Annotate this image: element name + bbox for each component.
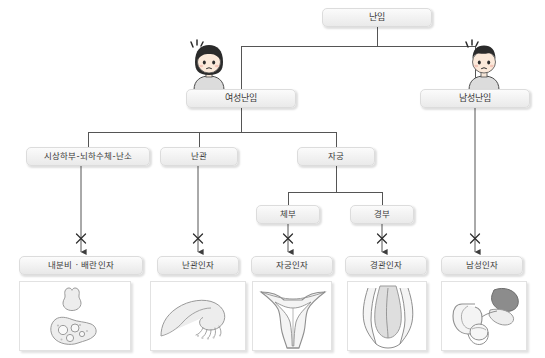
node-root-infertility[interactable]: 난임: [322, 8, 432, 27]
illustration-frame-uterine: [252, 281, 332, 351]
illustration-frame-endocrine: [19, 281, 131, 351]
node-label: 내분비 · 배란인자: [48, 261, 114, 270]
node-uterine-cervix[interactable]: 경부: [350, 205, 414, 224]
diagram-canvas: 난임 여성난임 남성난임 시상하부-뇌하수체-난소 난관 자궁 체부 경부 내분…: [0, 0, 545, 358]
female-patient-icon: [186, 38, 232, 90]
illustration-frame-tubal: [150, 281, 246, 351]
node-label: 시상하부-뇌하수체-난소: [44, 152, 133, 161]
node-label: 난임: [369, 13, 385, 22]
uterus-icon: [253, 282, 332, 351]
node-label: 자궁: [328, 152, 344, 161]
illustration-frame-male: [441, 281, 527, 351]
node-label: 남성난임: [459, 94, 492, 103]
node-label: 자궁인자: [276, 261, 309, 270]
node-label: 경관인자: [370, 261, 403, 270]
node-male-factor[interactable]: 남성인자: [441, 256, 523, 275]
node-uterus[interactable]: 자궁: [297, 147, 375, 166]
node-uterine-factor[interactable]: 자궁인자: [251, 256, 333, 275]
cervix-icon: [348, 282, 427, 351]
illustration-frame-cervical: [347, 281, 427, 351]
node-tubal-factor[interactable]: 난관인자: [157, 256, 239, 275]
node-male-infertility[interactable]: 남성난임: [420, 89, 530, 108]
male-genital-icon: [442, 282, 527, 351]
node-uterine-corpus[interactable]: 체부: [256, 205, 320, 224]
male-patient-icon: [461, 38, 507, 90]
pituitary-ovary-icon: [20, 282, 131, 351]
node-hypothalamus-pituitary-ovary[interactable]: 시상하부-뇌하수체-난소: [26, 147, 150, 166]
node-female-infertility[interactable]: 여성난임: [186, 89, 296, 108]
node-label: 남성인자: [466, 261, 499, 270]
node-label: 여성난임: [225, 94, 258, 103]
node-label: 난관: [191, 152, 207, 161]
node-label: 경부: [374, 210, 390, 219]
node-cervical-factor[interactable]: 경관인자: [345, 256, 427, 275]
node-endocrine-ovulation-factor[interactable]: 내분비 · 배란인자: [19, 256, 143, 275]
fallopian-tube-icon: [151, 282, 246, 351]
node-label: 난관인자: [182, 261, 215, 270]
node-label: 체부: [280, 210, 296, 219]
node-fallopian-tube[interactable]: 난관: [160, 147, 238, 166]
